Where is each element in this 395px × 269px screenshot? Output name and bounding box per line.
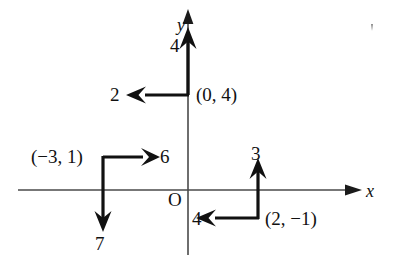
x-axis-label: x xyxy=(366,182,374,200)
vector-diagram-figure: y x O 4 2 (0, 4) (−3, 1) 6 7 3 4 (2, −1) xyxy=(0,0,395,269)
vector-0-4-left-arrowhead xyxy=(126,87,146,104)
origin-label: O xyxy=(168,190,182,209)
vector-neg3-1-right-arrowhead xyxy=(141,148,160,166)
x-axis-arrowhead xyxy=(345,185,362,196)
vector-from-0-4-group xyxy=(126,27,197,104)
stray-ink-mark xyxy=(371,24,373,31)
magnitude-label-3-up: 3 xyxy=(251,144,261,163)
magnitude-label-2-left: 2 xyxy=(110,85,120,104)
point-label-neg3-1: (−3, 1) xyxy=(31,147,83,166)
stray-ink-mark-group xyxy=(371,24,373,31)
magnitude-label-6-right: 6 xyxy=(160,147,170,166)
y-axis-label: y xyxy=(177,16,185,34)
point-label-2-neg1: (2, −1) xyxy=(265,209,317,228)
point-label-0-4: (0, 4) xyxy=(196,85,237,104)
magnitude-label-4-left: 4 xyxy=(192,209,202,228)
magnitude-label-7-down: 7 xyxy=(95,234,105,253)
magnitude-label-4-up: 4 xyxy=(170,36,180,55)
vector-from-2-neg1-group xyxy=(196,158,267,227)
